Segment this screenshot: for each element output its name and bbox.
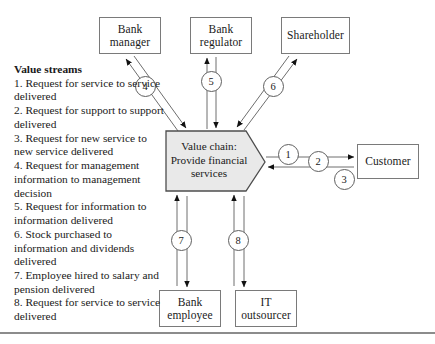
stream-badge-7-label: 7	[178, 235, 183, 246]
node-bank-employee-label: Bank employee	[167, 296, 213, 322]
node-shareholder-label: Shareholder	[287, 29, 344, 42]
value-streams-title: Value streams	[14, 63, 164, 77]
stream-badge-6[interactable]: 6	[263, 76, 284, 97]
value-stream-item: 4. Request for management information to…	[14, 159, 164, 200]
node-customer[interactable]: Customer	[357, 144, 419, 179]
stream-badge-6-label: 6	[270, 81, 275, 92]
node-customer-label: Customer	[365, 155, 411, 168]
value-stream-item: 3. Request for new service to new servic…	[14, 132, 164, 159]
stream-badge-3[interactable]: 3	[334, 169, 355, 190]
stream-badge-8-label: 8	[235, 235, 240, 246]
node-bank-regulator[interactable]: Bank regulator	[190, 17, 252, 54]
value-stream-item: 6. Stock purchased to information and di…	[14, 228, 164, 269]
value-chain-shape	[166, 131, 265, 191]
stream-badge-8[interactable]: 8	[228, 230, 249, 251]
stream-badge-7[interactable]: 7	[171, 230, 192, 251]
node-bank-employee[interactable]: Bank employee	[159, 290, 221, 327]
node-shareholder[interactable]: Shareholder	[281, 17, 350, 54]
connector-5	[207, 57, 216, 129]
value-stream-item: 7. Employee hired to salary and pension …	[14, 269, 164, 296]
value-streams-list: 1. Request for service to service delive…	[14, 77, 164, 324]
stream-badge-1[interactable]: 1	[278, 144, 299, 165]
node-it-outsourcer-label: IT outsourcer	[241, 296, 291, 322]
stream-badge-2-label: 2	[315, 156, 320, 167]
stream-badge-1-label: 1	[285, 149, 290, 160]
bottom-divider	[0, 332, 435, 334]
stream-badge-2[interactable]: 2	[308, 151, 329, 172]
stream-badge-5[interactable]: 5	[201, 71, 222, 92]
node-bank-manager-label: Bank manager	[110, 23, 150, 49]
value-stream-item: 5. Request for information to informatio…	[14, 200, 164, 227]
value-chain-diagram: Value chain: Provide financial services …	[0, 0, 435, 344]
node-it-outsourcer[interactable]: IT outsourcer	[235, 290, 297, 327]
node-bank-manager[interactable]: Bank manager	[99, 17, 161, 54]
stream-badge-3-label: 3	[341, 174, 346, 185]
node-bank-regulator-label: Bank regulator	[200, 23, 243, 49]
value-stream-item: 1. Request for service to service delive…	[14, 77, 164, 104]
value-stream-item: 2. Request for support to support delive…	[14, 104, 164, 131]
value-streams-legend: Value streams 1. Request for service to …	[14, 63, 164, 324]
value-stream-item: 8. Request for service to service delive…	[14, 296, 164, 323]
stream-badge-5-label: 5	[208, 76, 213, 87]
